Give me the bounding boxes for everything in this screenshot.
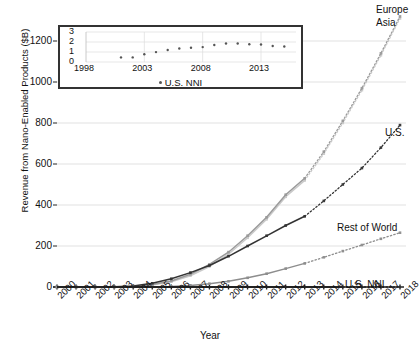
- inset-data-point-marker: [190, 47, 192, 49]
- data-point-marker: [227, 255, 230, 258]
- inset-data-point-marker: [155, 51, 157, 53]
- data-point-marker: [246, 277, 249, 280]
- data-point-marker: [284, 224, 287, 227]
- inset-y-tick-label: 3: [62, 27, 74, 36]
- data-point-marker: [361, 244, 364, 247]
- inset-data-point-marker: [213, 44, 215, 46]
- series-label-europe: Europe: [376, 4, 408, 15]
- series-label-rest-of-world: Rest of World: [337, 222, 397, 233]
- data-point-marker: [380, 146, 383, 149]
- data-point-marker: [208, 264, 211, 267]
- series-line-solid: [57, 178, 305, 287]
- data-point-marker: [399, 231, 402, 234]
- data-point-marker: [361, 167, 364, 170]
- y-tick-label: 200: [16, 241, 52, 251]
- inset-data-point-marker: [272, 45, 274, 47]
- inset-y-tick-label: 1: [62, 47, 74, 56]
- data-point-marker: [284, 193, 287, 196]
- inset-data-point-marker: [237, 42, 239, 44]
- series-line-solid: [57, 180, 305, 287]
- data-point-marker: [342, 120, 345, 123]
- data-point-marker: [170, 278, 173, 281]
- data-point-marker: [380, 238, 383, 241]
- data-point-marker: [323, 256, 326, 259]
- inset-legend-marker-icon: [159, 81, 162, 84]
- inset-legend-label: U.S. NNI: [165, 77, 202, 88]
- data-point-marker: [303, 177, 306, 180]
- inset-chart-us-nni: 32101998200320082013U.S. NNI: [58, 25, 303, 89]
- data-point-marker: [265, 234, 268, 237]
- series-label-u-s-nni: U.S. NNI: [345, 279, 384, 290]
- inset-data-point-marker: [132, 56, 134, 58]
- data-point-marker: [303, 262, 306, 265]
- data-point-marker: [227, 280, 230, 283]
- data-point-marker: [323, 200, 326, 203]
- data-point-marker: [342, 250, 345, 253]
- x-axis-title: Year: [0, 330, 420, 341]
- data-point-marker: [265, 272, 268, 275]
- data-point-marker: [399, 124, 402, 127]
- data-point-marker: [380, 52, 383, 55]
- inset-data-point-marker: [225, 42, 227, 44]
- data-point-marker: [246, 245, 249, 248]
- inset-data-point-marker: [248, 43, 250, 45]
- data-point-marker: [361, 87, 364, 90]
- y-tick-label: 0: [16, 282, 52, 292]
- inset-data-point-marker: [167, 49, 169, 51]
- inset-x-tick-label: 1998: [74, 63, 94, 73]
- inset-x-tick-label: 2008: [191, 63, 211, 73]
- inset-data-point-marker: [260, 43, 262, 45]
- data-point-marker: [246, 234, 249, 237]
- inset-data-point-marker: [178, 47, 180, 49]
- inset-y-tick-label: 0: [62, 57, 74, 66]
- data-point-marker: [284, 267, 287, 270]
- inset-x-tick-label: 2013: [249, 63, 269, 73]
- series-u-s-: [56, 124, 402, 289]
- data-point-marker: [323, 150, 326, 153]
- inset-x-tick-label: 2003: [132, 63, 152, 73]
- inset-y-tick-label: 2: [62, 37, 74, 46]
- y-axis-title: Revenue from Nano-Enabled Products ($B): [19, 1, 30, 241]
- series-line-projection: [305, 125, 400, 216]
- series-line-projection: [305, 233, 400, 264]
- series-line-solid: [57, 216, 305, 287]
- inset-data-point-marker: [202, 46, 204, 48]
- data-point-marker: [227, 251, 230, 254]
- data-point-marker: [399, 15, 402, 18]
- data-point-marker: [303, 215, 306, 218]
- chart-figure: 020040060080010001200Revenue from Nano-E…: [0, 0, 420, 353]
- data-point-marker: [342, 183, 345, 186]
- data-point-marker: [189, 271, 192, 274]
- inset-data-point-marker: [283, 45, 285, 47]
- inset-legend: U.S. NNI: [60, 77, 301, 88]
- data-point-marker: [265, 216, 268, 219]
- inset-data-point-marker: [120, 56, 122, 58]
- inset-data-point-marker: [143, 53, 145, 55]
- series-label-u-s-: U.S.: [385, 127, 404, 138]
- series-label-asia: Asia: [376, 17, 395, 28]
